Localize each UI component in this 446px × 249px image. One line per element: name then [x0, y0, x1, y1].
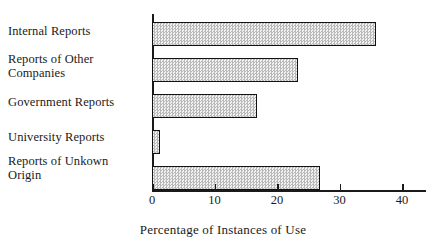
category-label-internal-reports: Internal Reports: [8, 25, 148, 39]
category-label-reports-of-other-companies: Reports of Other Companies: [8, 53, 148, 80]
tick-label: 0: [137, 193, 167, 208]
tick-mark: [277, 184, 279, 190]
tick-label: 10: [200, 193, 230, 208]
tick-mark: [340, 184, 342, 190]
tick-mark: [402, 184, 404, 190]
tick-mark: [215, 184, 217, 190]
bar-government-reports: [152, 94, 257, 118]
tick-label: 30: [325, 193, 355, 208]
value-axis-line: [152, 190, 426, 192]
tick-label: 40: [387, 193, 417, 208]
bar-internal-reports: [152, 22, 376, 46]
bar-reports-of-unkown-origin: [152, 166, 320, 190]
x-axis-title: Percentage of Instances of Use: [0, 222, 446, 238]
category-label-reports-of-unkown-origin: Reports of Unkown Origin: [8, 155, 148, 182]
bar-university-reports: [152, 130, 160, 154]
category-label-government-reports: Government Reports: [8, 96, 148, 110]
tick-label: 20: [262, 193, 292, 208]
plot-area: [152, 14, 426, 190]
bar-chart: Internal Reports Reports of Other Compan…: [0, 0, 446, 249]
category-label-university-reports: University Reports: [8, 131, 148, 145]
tick-mark: [152, 184, 154, 190]
bar-reports-of-other-companies: [152, 58, 298, 82]
